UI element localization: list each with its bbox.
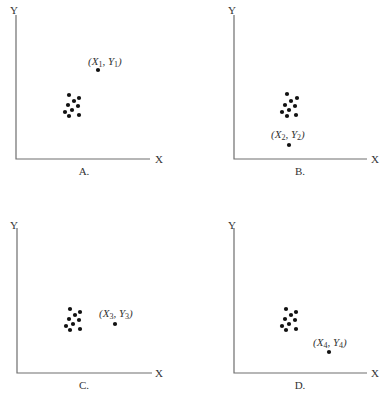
data-point: [289, 99, 293, 103]
data-point: [294, 113, 298, 117]
cluster-points: [280, 307, 298, 332]
outlier-point: [113, 322, 117, 326]
panel-c: YXC.(X3, Y3): [10, 219, 163, 391]
data-point: [68, 307, 72, 311]
data-point: [284, 328, 288, 332]
panel-a: YXA.(X1, Y1): [10, 4, 163, 177]
data-point: [67, 114, 71, 118]
data-point: [283, 103, 287, 107]
x-axis-label: X: [371, 153, 379, 165]
panel-d: YXD.(X4, Y4): [228, 219, 379, 391]
data-point: [63, 110, 67, 114]
panel-label: D.: [295, 379, 306, 391]
data-point: [72, 99, 76, 103]
data-point: [78, 327, 82, 331]
data-point: [67, 317, 71, 321]
data-point: [64, 324, 68, 328]
data-point: [71, 322, 75, 326]
data-point: [287, 108, 291, 112]
data-point: [295, 96, 299, 100]
data-point: [78, 310, 82, 314]
outlier-label: (X1, Y1): [88, 55, 122, 69]
data-point: [284, 307, 288, 311]
outlier-point: [287, 143, 291, 147]
x-axis-label: X: [371, 367, 379, 379]
y-axis-label: Y: [228, 4, 236, 16]
data-point: [293, 104, 297, 108]
panel-b: YXB.(X2, Y2): [228, 4, 379, 177]
data-point: [283, 317, 287, 321]
data-point: [66, 103, 70, 107]
data-point: [68, 328, 72, 332]
y-axis-label: Y: [10, 4, 18, 16]
panel-label: C.: [79, 379, 89, 391]
x-axis-label: X: [155, 153, 163, 165]
y-axis-label: Y: [10, 219, 18, 231]
data-point: [293, 318, 297, 322]
data-point: [77, 318, 81, 322]
data-point: [77, 96, 81, 100]
outlier-label: (X4, Y4): [313, 336, 347, 350]
scatter-figure: YXA.(X1, Y1)YXB.(X2, Y2)YXC.(X3, Y3)YXD.…: [0, 0, 388, 401]
x-axis-label: X: [155, 367, 163, 379]
cluster-points: [64, 307, 82, 332]
data-point: [294, 327, 298, 331]
axes-lines: [234, 228, 367, 373]
data-point: [77, 113, 81, 117]
outlier-label: (X2, Y2): [271, 128, 305, 142]
data-point: [76, 104, 80, 108]
axes-lines: [16, 15, 150, 159]
data-point: [294, 310, 298, 314]
data-point: [70, 108, 74, 112]
data-point: [285, 114, 289, 118]
data-point: [289, 313, 293, 317]
panel-label: B.: [295, 165, 305, 177]
data-point: [280, 324, 284, 328]
axes-lines: [17, 228, 152, 373]
data-point: [285, 92, 289, 96]
cluster-points: [280, 92, 299, 118]
data-point: [67, 93, 71, 97]
cluster-points: [63, 93, 81, 118]
data-point: [280, 110, 284, 114]
y-axis-label: Y: [228, 219, 236, 231]
outlier-point: [327, 350, 331, 354]
outlier-label: (X3, Y3): [99, 307, 133, 321]
panel-label: A.: [79, 165, 90, 177]
data-point: [73, 313, 77, 317]
data-point: [287, 322, 291, 326]
